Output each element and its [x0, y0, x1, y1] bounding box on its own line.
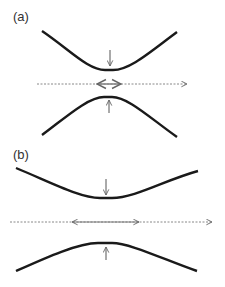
panel-a	[37, 31, 187, 137]
upper-curve-b	[16, 168, 198, 198]
diagram-canvas	[0, 0, 225, 287]
panel-b	[10, 168, 212, 271]
